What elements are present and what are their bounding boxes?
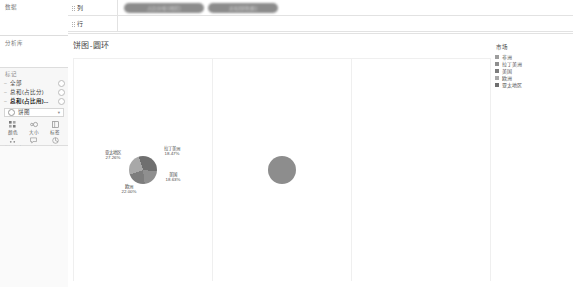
legend-item[interactable]: 拉丁美洲	[495, 60, 569, 67]
legend-item-label: 美国	[502, 67, 512, 74]
marks-button-size[interactable]: 大小	[23, 120, 44, 135]
slice-label-latam: 拉丁美洲 18.47%	[151, 146, 193, 157]
columns-shelf-text: 列	[77, 3, 83, 12]
legend-item[interactable]: 美国	[495, 67, 569, 74]
marks-group-measure-1[interactable]: – 总和(占比分)	[0, 88, 68, 97]
marks-group-label: 总和(占比用)...	[10, 97, 56, 106]
detail-icon	[9, 136, 17, 144]
label-icon	[51, 120, 59, 128]
marks-button-label: 标签	[50, 129, 60, 135]
legend-item[interactable]: 欧洲	[495, 74, 569, 81]
columns-shelf-label: 列	[68, 0, 118, 15]
marks-button-color[interactable]: 颜色	[2, 120, 23, 135]
legend-item-label: 非洲	[502, 53, 512, 60]
chart-cell-2[interactable]	[213, 59, 352, 281]
marks-group-all[interactable]: – 全部	[0, 79, 68, 88]
shelf-area: 列 占比分析(地区) 总和(销售额) 行	[68, 0, 573, 33]
mark-type-dropdown[interactable]: 饼图 ▾	[4, 108, 64, 117]
pie-mark-icon	[8, 109, 15, 116]
chart-canvas: 亚太地区 27.26% 拉丁美洲 18.47% 美国 18.63% 欧洲 22.…	[73, 58, 491, 281]
marks-button-label: 颜色	[8, 129, 18, 135]
marks-group-indicator-icon	[58, 89, 65, 96]
legend-swatch-icon	[495, 83, 499, 87]
legend-item-label: 拉丁美洲	[502, 60, 522, 67]
marks-group-label: 全部	[10, 79, 56, 88]
color-icon	[9, 120, 17, 128]
marks-group-measure-2[interactable]: – 总和(占比用)...	[0, 97, 68, 106]
slice-label-europe: 欧洲 22.00%	[109, 184, 149, 195]
pie-chart[interactable]: 亚太地区 27.26% 拉丁美洲 18.47% 美国 18.63% 欧洲 22.…	[93, 132, 193, 208]
rows-shelf-dropzone[interactable]	[118, 16, 573, 31]
rows-shelf[interactable]: 行	[68, 16, 573, 32]
marks-group-indicator-icon	[58, 80, 65, 87]
visualization-area: 饼图-圆环 亚太地区 27.26% 拉丁美洲 18.47% 美国 18.	[68, 33, 573, 287]
shelf-pill[interactable]: 占比分析(地区)	[124, 3, 204, 13]
tooltip-icon	[30, 136, 38, 144]
slice-label-us: 美国 18.63%	[153, 172, 193, 183]
drag-grip-icon[interactable]	[72, 21, 75, 27]
columns-shelf-dropzone[interactable]: 占比分析(地区) 总和(销售额)	[118, 0, 573, 15]
size-icon	[30, 120, 38, 128]
plain-circle-mark[interactable]	[268, 156, 296, 184]
analytics-panel-title: 分析库	[0, 36, 68, 49]
marks-button-label: 大小	[29, 129, 39, 135]
legend-item-label: 亚太地区	[502, 81, 522, 88]
shelf-pill[interactable]: 总和(销售额)	[208, 3, 278, 13]
sidebar-blank-area	[0, 146, 68, 287]
legend-title: 市场	[495, 43, 569, 51]
legend-swatch-icon	[495, 76, 499, 80]
marks-card-title: 标记	[0, 68, 68, 79]
marks-group-label: 总和(占比分)	[10, 88, 56, 97]
left-sidebar: 数据 分析库 标记 – 全部 – 总和(占比分) – 总和(占比用)...	[0, 0, 68, 287]
legend-item[interactable]: 亚太地区	[495, 81, 569, 88]
collapse-caret-icon[interactable]: –	[4, 79, 8, 88]
collapse-caret-icon[interactable]: –	[4, 88, 8, 97]
rows-shelf-text: 行	[77, 19, 83, 28]
analytics-panel[interactable]: 分析库	[0, 36, 68, 68]
slice-label-apac: 亚太地区 27.26%	[93, 150, 133, 161]
marks-group-indicator-icon	[58, 98, 65, 105]
mark-type-label: 饼图	[18, 108, 55, 117]
legend-swatch-icon	[495, 55, 499, 59]
data-panel-title: 数据	[0, 0, 68, 13]
tableau-workbook-window: 数据 分析库 标记 – 全部 – 总和(占比分) – 总和(占比用)...	[0, 0, 573, 287]
legend-swatch-icon	[495, 69, 499, 73]
legend-swatch-icon	[495, 62, 499, 66]
chart-cell-3[interactable]	[352, 59, 491, 281]
columns-shelf[interactable]: 列 占比分析(地区) 总和(销售额)	[68, 0, 573, 16]
color-legend: 市场 非洲 拉丁美洲 美国 欧洲 亚太地区	[495, 43, 569, 88]
legend-item[interactable]: 非洲	[495, 53, 569, 60]
rows-shelf-label: 行	[68, 16, 118, 31]
data-panel[interactable]: 数据	[0, 0, 68, 36]
chart-cell-1[interactable]: 亚太地区 27.26% 拉丁美洲 18.47% 美国 18.63% 欧洲 22.…	[74, 59, 213, 281]
angle-icon	[51, 136, 59, 144]
collapse-caret-icon[interactable]: –	[4, 97, 8, 106]
marks-card: 标记 – 全部 – 总和(占比分) – 总和(占比用)... 饼图 ▾	[0, 68, 68, 146]
drag-grip-icon[interactable]	[72, 5, 75, 11]
marks-button-label[interactable]: 标签	[45, 120, 66, 135]
legend-item-label: 欧洲	[502, 74, 512, 81]
chevron-down-icon[interactable]: ▾	[58, 110, 60, 115]
